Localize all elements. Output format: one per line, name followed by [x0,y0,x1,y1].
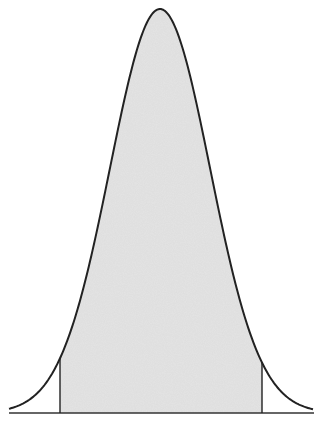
chart-canvas [0,0,330,425]
shaded-region [60,9,262,413]
